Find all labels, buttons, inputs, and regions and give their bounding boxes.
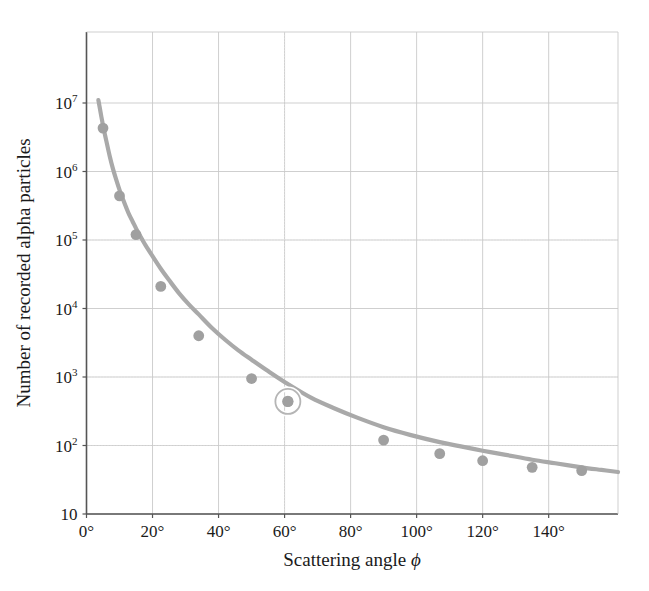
x-tick-label: 0° bbox=[79, 522, 94, 541]
x-tick-label: 20° bbox=[141, 522, 165, 541]
y-tick-label: 10 bbox=[61, 505, 78, 524]
data-point bbox=[434, 448, 445, 459]
x-axis-title: Scattering angle ϕ bbox=[283, 549, 421, 570]
data-point bbox=[527, 462, 538, 473]
x-tick-label: 100° bbox=[400, 522, 432, 541]
data-point bbox=[155, 281, 166, 292]
chart-background bbox=[0, 0, 649, 591]
x-tick-label: 140° bbox=[533, 522, 565, 541]
y-axis-title: Number of recorded alpha particles bbox=[13, 138, 34, 407]
x-tick-label: 80° bbox=[339, 522, 363, 541]
data-point bbox=[576, 465, 587, 476]
x-tick-label: 60° bbox=[273, 522, 297, 541]
data-point bbox=[131, 229, 142, 240]
x-tick-label: 120° bbox=[466, 522, 498, 541]
data-point bbox=[246, 373, 257, 384]
data-point bbox=[114, 191, 125, 202]
chart-page: 0°20°40°60°80°100°120°140° 1071061051041… bbox=[0, 0, 649, 591]
data-point bbox=[98, 123, 109, 134]
data-point bbox=[378, 435, 389, 446]
x-tick-label: 40° bbox=[207, 522, 231, 541]
data-point bbox=[477, 455, 488, 466]
data-point bbox=[193, 330, 204, 341]
scattering-angle-chart: 0°20°40°60°80°100°120°140° 1071061051041… bbox=[0, 0, 649, 591]
